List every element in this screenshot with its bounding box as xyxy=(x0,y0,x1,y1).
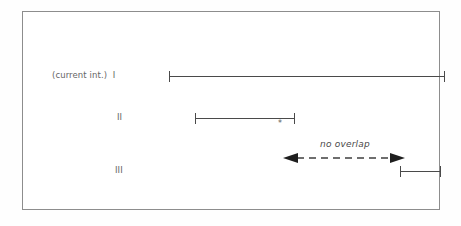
interval-bar-i xyxy=(169,71,445,82)
figure-frame: (current int.) I II * no overlap III xyxy=(22,11,440,210)
interval-ii-right-cap-icon xyxy=(294,113,295,124)
no-overlap-annotation-label: no overlap xyxy=(320,139,370,149)
interval-overlap-figure: (current int.) I II * no overlap III xyxy=(0,0,461,226)
no-overlap-double-arrow-icon xyxy=(283,151,405,165)
asterisk-marker-icon: * xyxy=(278,120,282,128)
row-label-ii: II xyxy=(117,112,122,122)
interval-i-right-cap-icon xyxy=(444,71,445,82)
row-label-iii: III xyxy=(115,165,123,175)
interval-iii-shaft xyxy=(400,171,441,172)
interval-iii-right-cap-icon xyxy=(440,166,441,177)
interval-bar-iii xyxy=(400,166,441,177)
row-label-i: (current int.) I xyxy=(52,70,115,80)
interval-i-shaft xyxy=(169,76,445,77)
